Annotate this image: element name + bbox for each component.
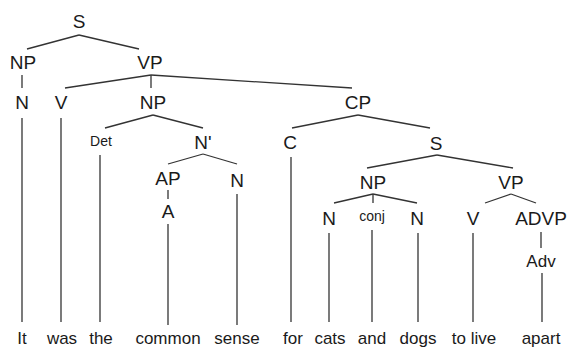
node-v-live: V	[467, 208, 480, 229]
node-conj: conj	[359, 208, 385, 224]
node-n-it: N	[15, 92, 29, 113]
node-n-dogs: N	[410, 208, 424, 229]
word-was: was	[46, 329, 77, 348]
node-det: Det	[90, 133, 112, 149]
word-apart: apart	[522, 329, 561, 348]
word-cats: cats	[314, 329, 345, 348]
node-vp-main: VP	[137, 52, 162, 73]
node-vp-embedded: VP	[498, 172, 523, 193]
node-adv: Adv	[526, 252, 556, 271]
sentence-words: It was the common sense for cats and dog…	[17, 329, 560, 348]
word-dogs: dogs	[400, 329, 437, 348]
node-cp: CP	[345, 92, 371, 113]
tree-edges	[22, 35, 542, 325]
tree-nodes: S NP VP N V NP CP Det N' C S AP N NP VP …	[10, 11, 567, 271]
word-sense: sense	[214, 329, 259, 348]
node-n-sense: N	[230, 170, 244, 191]
node-a: A	[162, 201, 175, 222]
node-c: C	[283, 132, 297, 153]
node-np-embedded: NP	[360, 172, 386, 193]
word-common: common	[135, 329, 200, 348]
node-np-object: NP	[140, 92, 166, 113]
node-n-bar: N'	[194, 132, 211, 153]
word-it: It	[17, 329, 27, 348]
word-and: and	[358, 329, 386, 348]
word-to-live: to live	[452, 329, 496, 348]
node-advp: ADVP	[515, 208, 567, 229]
node-s-root: S	[73, 11, 86, 32]
node-np-subject: NP	[10, 52, 36, 73]
node-ap: AP	[155, 168, 180, 189]
word-the: the	[89, 329, 113, 348]
node-s-embedded: S	[430, 133, 443, 154]
syntax-tree: S NP VP N V NP CP Det N' C S AP N NP VP …	[0, 0, 576, 359]
node-n-cats: N	[322, 208, 336, 229]
word-for: for	[283, 329, 303, 348]
node-v-was: V	[55, 92, 68, 113]
